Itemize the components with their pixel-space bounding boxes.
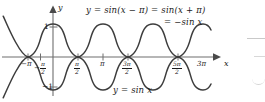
x-tick-3pi-2-den: 2 xyxy=(122,69,132,75)
x-tick-label-pi: π xyxy=(100,61,105,68)
x-tick-label-neg-pi-over-2: − π 2 xyxy=(34,60,46,76)
x-tick-pi-2-num: π xyxy=(74,61,80,67)
x-tick-neg-pi-2-den: 2 xyxy=(40,69,46,75)
x-tick-label-pi-over-2: π 2 xyxy=(74,60,80,76)
adjacent-figure-artifact-line xyxy=(247,38,265,39)
x-tick-label-5pi-over-2: 5π 2 xyxy=(172,60,182,76)
equation-bottom: y = sin x xyxy=(113,86,152,95)
adjacent-figure-artifact-tick xyxy=(254,56,265,57)
x-tick-3pi-2-num: 3π xyxy=(122,61,132,67)
sine-phase-shift-figure: y = sin(x − π) = sin(x + π) = −sin x y =… xyxy=(0,0,265,102)
equation-top-line1: y = sin(x − π) = sin(x + π) xyxy=(86,6,205,15)
x-tick-label-neg-pi: −π xyxy=(21,61,31,68)
x-tick-label-3pi-over-2: 3π 2 xyxy=(122,60,132,76)
x-axis-label: x xyxy=(224,60,229,68)
adjacent-figure-artifact-curve xyxy=(252,72,265,85)
x-tick-neg-pi-value: π xyxy=(27,60,32,68)
x-tick-pi-2-den: 2 xyxy=(74,69,80,75)
x-tick-label-3pi: 3π xyxy=(197,61,206,68)
x-tick-5pi-2-den: 2 xyxy=(172,69,182,75)
x-tick-5pi-2-num: 5π xyxy=(172,61,182,67)
y-tick-label-neg1: −1 xyxy=(42,83,53,91)
y-axis-label: y xyxy=(58,4,63,12)
equation-top-line2: = −sin x xyxy=(164,18,203,27)
y-tick-label-1: 1 xyxy=(44,23,49,31)
x-tick-neg-pi-2-num: π xyxy=(40,61,46,67)
